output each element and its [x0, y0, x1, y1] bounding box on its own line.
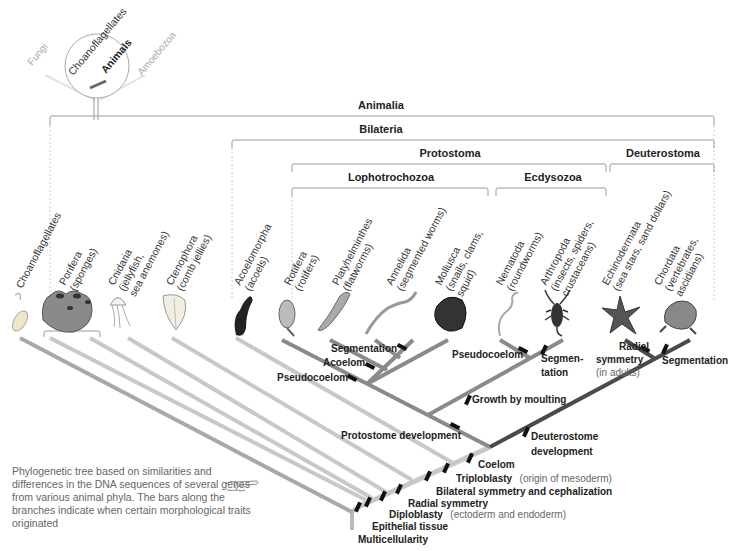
taxon-label-arthropoda: Arthropoda (insects, spiders, crustacean…	[537, 212, 606, 298]
acoel-icon	[235, 296, 253, 336]
clade-label-lophotrochozoa: Lophotrochozoa	[348, 171, 435, 183]
trait-label-growth-by-moulting: Growth by moulting	[472, 394, 566, 405]
trait-label-coelom: Coelom	[478, 459, 515, 470]
taxon-label-platyhelminthes: Platyhelminthes (flatworms)	[329, 216, 385, 293]
rotifer-icon	[279, 300, 295, 336]
frog-icon	[660, 301, 696, 334]
taxon-labels: Choanoflagellates Porifera (sponges) Cni…	[13, 182, 710, 298]
figure-caption: Phylogenetic tree based on similarities …	[12, 465, 252, 530]
trait-label-segmentation-ecdy: Segmen-	[541, 353, 583, 364]
trait-label-bilateral-symmetry: Bilateral symmetry and cephalization	[436, 486, 612, 497]
mollusc-icon	[435, 297, 466, 331]
organism-illustrations	[9, 290, 696, 336]
trait-label-segmentation-lopho: Segmentation	[331, 343, 397, 354]
trait-label-deuterostome-development-2: development	[531, 446, 593, 457]
sponge-icon	[42, 291, 92, 332]
clade-label-protostoma: Protostoma	[419, 147, 481, 159]
trait-label-multicellularity: Multicellularity	[358, 534, 428, 545]
taxon-label-mollusca: Mollusca (snails, clams, squid)	[432, 223, 495, 299]
inset-diagram: Fungi Choanoflagellates Animals Amoebozo…	[25, 5, 178, 120]
trait-label-pseudocoelom-lopho: Pseudocoelom	[277, 372, 348, 383]
sea-star-icon	[602, 296, 640, 334]
trait-label-pseudocoelom-ecdy: Pseudocoelom	[452, 349, 523, 360]
nematode-icon	[499, 293, 518, 336]
comb-jelly-icon	[163, 295, 186, 330]
trait-label-triploblasty: Triploblasty (origin of mesoderm)	[456, 468, 612, 485]
clade-label-bilateria: Bilateria	[359, 123, 403, 135]
taxon-label-cnidaria: Cnidaria (jellyfish, sea anemones)	[105, 217, 171, 298]
taxon-label-porifera: Porifera (sponges)	[56, 240, 99, 293]
arthropod-icon	[545, 290, 570, 336]
trait-label-acoelom: Acoelom	[323, 357, 365, 368]
clade-brackets	[44, 116, 714, 337]
clade-label-animalia: Animalia	[358, 99, 405, 111]
inset-label-fungi: Fungi	[25, 41, 50, 67]
taxon-label-ctenophora: Ctenophora (comb jellies)	[163, 227, 213, 293]
trait-label-epithelial-tissue: Epithelial tissue	[372, 521, 449, 532]
choanoflagellate-icon	[9, 293, 30, 333]
taxon-label-chordata: Chordata (vertebrates, ascidians)	[651, 229, 710, 298]
trait-label-segmentation-chordata: Segmentation	[662, 355, 728, 366]
clade-label-ecdysozoa: Ecdysozoa	[524, 171, 582, 183]
clade-label-deuterostoma: Deuterostoma	[626, 147, 701, 159]
trait-label-radial-adult-2: symmetry	[596, 354, 644, 365]
trait-label-radial-symmetry: Radial symmetry	[408, 498, 488, 509]
trait-label-radial-adult-note: (in adults)	[596, 367, 640, 378]
trait-label-radial-adult: Radial	[619, 341, 649, 352]
trait-label-segmentation-ecdy-2: tation	[541, 367, 568, 378]
taxon-label-rotifera: Rotifera (rotifers)	[281, 247, 321, 293]
annelid-icon	[366, 292, 416, 334]
trait-label-deuterostome-development: Deuterostome	[531, 431, 599, 442]
jellyfish-icon	[110, 298, 130, 329]
taxon-label-acoelomorpha: Acoelomorpha (acoels)	[231, 221, 284, 292]
taxon-label-choanoflagellates: Choanoflagellates	[13, 210, 63, 290]
trait-label-protostome-development: Protostome development	[341, 430, 462, 441]
flatworm-icon	[318, 292, 350, 330]
inset-label-amoebozoa: Amoebozoa	[135, 29, 178, 77]
